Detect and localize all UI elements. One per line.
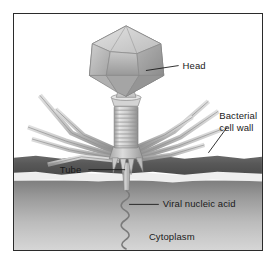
figure-root: Head Bacterial cell wall Tube Viral nucl… [0, 0, 277, 266]
label-head: Head [183, 60, 206, 71]
capsid-facet [106, 52, 139, 76]
label-tube: Tube [60, 164, 82, 175]
label-cytoplasm: Cytoplasm [149, 231, 195, 242]
label-viral-nucleic-acid: Viral nucleic acid [163, 198, 236, 209]
contractile-sheath [114, 106, 138, 148]
label-bacterial-cell-wall-line1: Bacterial [219, 110, 257, 121]
figure-frame: Head Bacterial cell wall Tube Viral nucl… [13, 13, 263, 251]
cytoplasm-region [14, 181, 262, 250]
bacteriophage-diagram: Head Bacterial cell wall Tube Viral nucl… [14, 14, 262, 250]
label-bacterial-cell-wall-line2: cell wall [219, 122, 253, 133]
tail-tube-highlight [125, 163, 127, 191]
baseplate-body [109, 147, 143, 159]
